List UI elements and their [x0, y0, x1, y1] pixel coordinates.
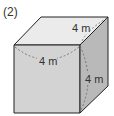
cube-diagram: (2) 4 m 4 m 4 m	[0, 0, 114, 116]
right-height-label: 4 m	[85, 73, 103, 85]
top-depth-label: 4 m	[72, 22, 90, 34]
problem-number: (2)	[3, 5, 18, 19]
front-width-label: 4 m	[39, 55, 57, 67]
